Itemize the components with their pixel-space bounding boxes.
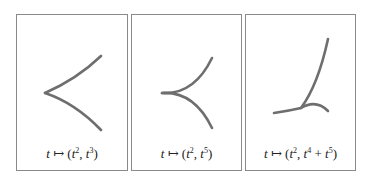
- panel-ramphoid-cusp: t ↦ (t2, t4 + t5): [245, 14, 356, 171]
- caption-panel-3: t ↦ (t2, t4 + t5): [246, 146, 355, 162]
- panel-cusp: t ↦ (t2, t3): [16, 14, 128, 171]
- panel-higher-cusp: t ↦ (t2, t5): [131, 14, 242, 171]
- caption-panel-2: t ↦ (t2, t5): [132, 146, 241, 162]
- caption-panel-1: t ↦ (t2, t3): [17, 146, 127, 162]
